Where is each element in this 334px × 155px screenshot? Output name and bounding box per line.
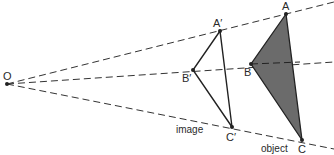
label-object: object <box>261 143 288 154</box>
label-c-prime: C′ <box>226 131 236 143</box>
point-o <box>5 82 9 86</box>
label-b: B <box>244 66 251 78</box>
label-o: O <box>3 70 12 82</box>
point-a-prime <box>218 29 222 33</box>
point-c <box>300 138 304 142</box>
point-c-prime <box>230 125 234 129</box>
label-c: C <box>298 143 306 155</box>
point-a <box>284 12 288 16</box>
label-a: A <box>282 0 290 12</box>
object-triangle <box>251 14 302 140</box>
image-triangle <box>193 31 232 127</box>
label-a-prime: A′ <box>213 17 222 29</box>
label-image: image <box>176 124 204 135</box>
enlargement-diagram: O A B C A′ B′ C′ image object <box>0 0 334 155</box>
label-b-prime: B′ <box>182 72 191 84</box>
point-b-prime <box>191 68 195 72</box>
